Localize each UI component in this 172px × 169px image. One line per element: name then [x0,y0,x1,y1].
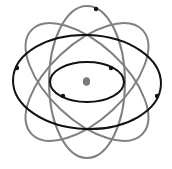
electron-inner-upper-right-icon [109,66,113,70]
nucleus-icon [83,77,90,86]
electron-outer-left-icon [15,66,19,70]
electron-outer-right-icon [155,94,159,98]
electron-inner-lower-left-icon [61,94,65,98]
electron-top-icon [94,7,98,11]
atom-diagram [0,0,172,169]
